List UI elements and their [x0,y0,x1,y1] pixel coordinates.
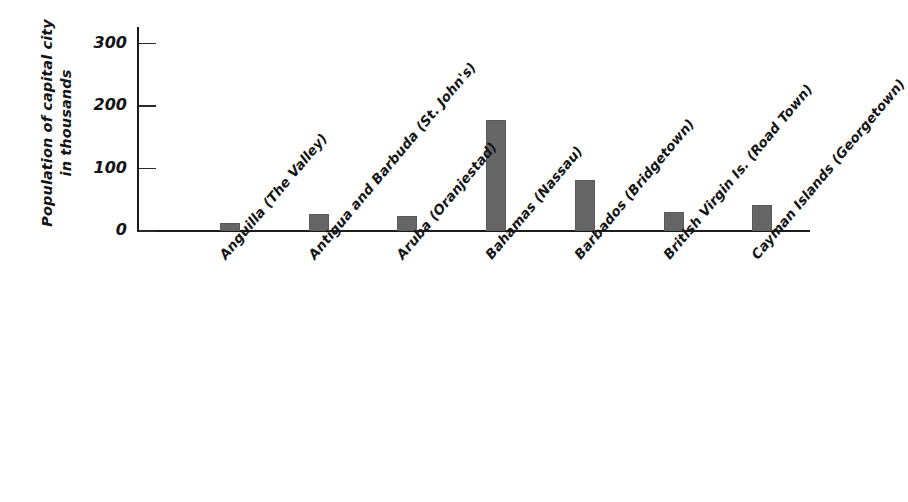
y-tick-label-0: 0 [81,220,127,239]
x-axis-label: British Virgin Is. (Road Town) [659,81,815,262]
bar [486,120,506,231]
bar [575,180,595,231]
y-tick-mark-0 [139,230,156,232]
y-tick-mark-200 [139,105,156,107]
x-axis-label: Aruba (Oranjestad) [393,139,500,262]
y-tick-label-300: 300 [81,33,127,52]
y-tick-label-100: 100 [81,158,127,177]
y-tick-mark-300 [139,43,156,45]
y-tick-label-200: 200 [81,95,127,114]
x-axis-label: Cayman Islands (Georgetown) [748,76,908,263]
y-axis-line [137,27,139,232]
y-tick-mark-100 [139,168,156,170]
